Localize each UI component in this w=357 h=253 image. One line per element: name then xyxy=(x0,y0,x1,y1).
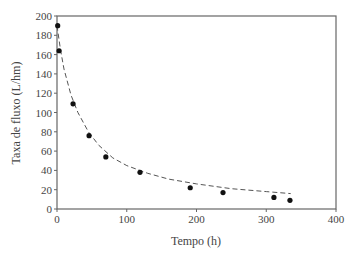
data-point xyxy=(137,170,142,175)
y-tick-label: 80 xyxy=(41,126,53,138)
y-tick-label: 100 xyxy=(36,107,53,119)
data-point xyxy=(103,154,108,159)
y-axis-label: Taxa de fluxo (L/hm) xyxy=(9,62,23,165)
data-point xyxy=(220,190,225,195)
data-point xyxy=(271,195,276,200)
y-tick-label: 180 xyxy=(36,29,53,41)
y-tick-label: 0 xyxy=(47,203,53,215)
x-tick-label: 300 xyxy=(258,213,275,225)
plot-frame xyxy=(57,16,336,209)
y-tick-label: 140 xyxy=(36,68,53,80)
data-point xyxy=(56,48,61,53)
fit-curve xyxy=(57,26,291,194)
data-points xyxy=(55,23,292,203)
x-tick-label: 100 xyxy=(119,213,136,225)
y-tick-label: 160 xyxy=(36,49,53,61)
y-axis-ticks: 020406080100120140160180200 xyxy=(36,10,58,215)
y-tick-label: 40 xyxy=(41,164,53,176)
data-point xyxy=(55,23,60,28)
x-tick-label: 0 xyxy=(54,213,60,225)
data-point xyxy=(188,185,193,190)
x-tick-label: 200 xyxy=(188,213,205,225)
data-point xyxy=(86,133,91,138)
y-tick-label: 20 xyxy=(41,184,53,196)
y-tick-label: 200 xyxy=(36,10,53,22)
y-tick-label: 60 xyxy=(41,145,53,157)
data-point xyxy=(287,198,292,203)
x-axis-ticks: 0100200300400 xyxy=(54,209,345,225)
flux-rate-chart: 020406080100120140160180200 010020030040… xyxy=(0,0,357,253)
x-tick-label: 400 xyxy=(328,213,345,225)
data-point xyxy=(70,101,75,106)
x-axis-label: Tempo (h) xyxy=(171,234,221,248)
y-tick-label: 120 xyxy=(36,87,53,99)
